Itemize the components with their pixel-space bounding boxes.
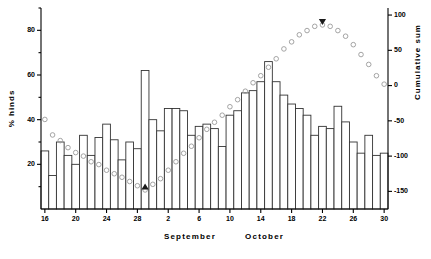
cumsum-point-oct-13 — [251, 80, 256, 85]
bar-oct-25 — [342, 122, 350, 209]
month-label-september: September — [164, 232, 216, 241]
cumsum-point-oct-25 — [343, 34, 348, 39]
cumsum-point-oct-26 — [351, 42, 356, 47]
bar-sep-24 — [103, 124, 111, 209]
bar-oct-28 — [365, 135, 373, 209]
bar-sep-22 — [87, 155, 95, 209]
cumsum-point-oct-17 — [282, 47, 287, 52]
y-axis-title: % hinds — [7, 90, 16, 128]
bar-oct-7 — [203, 124, 211, 209]
bar-oct-11 — [234, 111, 242, 209]
bar-sep-30 — [149, 120, 157, 209]
bar-sep-27 — [126, 142, 134, 209]
bar-oct-15 — [265, 62, 273, 209]
y2-axis-title: Cumulative sum — [413, 24, 422, 100]
cumsum-point-sep-20 — [73, 150, 78, 155]
bar-oct-12 — [241, 93, 249, 209]
x-tick-label-20: 20 — [72, 215, 80, 222]
cumsum-point-oct-9 — [220, 113, 225, 118]
y-tick-label-20: 20 — [27, 160, 35, 167]
y2-tick-label-0: 0 — [394, 81, 398, 88]
cumsum-point-sep-17 — [50, 133, 55, 138]
y2-tick-label-100: 100 — [394, 11, 406, 18]
y2-tick-label-50: 50 — [394, 46, 402, 53]
cumsum-point-oct-23 — [328, 24, 333, 29]
bar-sep-18 — [56, 142, 64, 209]
bar-oct-3 — [172, 109, 180, 210]
x-tick-label-24: 24 — [103, 215, 111, 222]
x-tick-label-18: 18 — [288, 215, 296, 222]
cumsum-point-oct-11 — [235, 97, 240, 102]
bar-oct-30 — [380, 153, 388, 209]
cumsum-point-oct-20 — [305, 28, 310, 33]
bar-sep-19 — [64, 155, 72, 209]
bar-oct-8 — [211, 129, 219, 209]
cumsum-point-oct-21 — [312, 24, 317, 29]
y-tick-label-60: 60 — [27, 71, 35, 78]
bar-oct-21 — [311, 135, 319, 209]
bar-oct-9 — [218, 146, 226, 209]
bar-oct-22 — [319, 126, 327, 209]
bar-oct-27 — [357, 153, 365, 209]
y2-tick-label-neg150: -150 — [394, 187, 408, 194]
cumsum-point-oct-19 — [297, 33, 302, 38]
bar-oct-19 — [295, 109, 303, 210]
bar-oct-26 — [349, 142, 357, 209]
x-tick-label-14: 14 — [257, 215, 265, 222]
bar-oct-17 — [280, 95, 288, 209]
cumsum-point-oct-27 — [359, 52, 364, 57]
bar-oct-16 — [272, 82, 280, 209]
x-tick-label-16: 16 — [41, 215, 49, 222]
cumsum-point-sep-16 — [43, 117, 48, 122]
bar-sep-17 — [49, 176, 57, 210]
x-tick-label-30: 30 — [380, 215, 388, 222]
y2-tick-label-neg100: -100 — [394, 152, 408, 159]
bar-oct-6 — [195, 126, 203, 209]
bar-sep-20 — [72, 164, 80, 209]
bar-oct-23 — [326, 129, 334, 209]
y2-tick-label-neg50: -50 — [394, 117, 404, 124]
bar-sep-21 — [80, 135, 88, 209]
bar-sep-25 — [110, 140, 118, 209]
bar-oct-10 — [226, 115, 234, 209]
x-tick-label-6: 6 — [197, 215, 201, 222]
bar-oct-4 — [180, 111, 188, 209]
chart-canvas: 20406080100500-50-100-150162024282610141… — [0, 0, 431, 259]
x-tick-label-28: 28 — [133, 215, 141, 222]
bar-oct-14 — [257, 82, 265, 209]
cumsum-point-oct-16 — [274, 56, 279, 61]
y-tick-label-40: 40 — [27, 116, 35, 123]
bar-oct-1 — [157, 131, 165, 209]
cumsum-point-oct-30 — [382, 82, 387, 87]
bar-oct-20 — [303, 115, 311, 209]
bar-oct-29 — [373, 155, 381, 209]
cumsum-point-oct-10 — [228, 104, 233, 109]
bar-sep-23 — [95, 138, 103, 209]
bar-oct-18 — [288, 104, 296, 209]
bar-sep-16 — [41, 151, 49, 209]
bar-oct-13 — [249, 91, 257, 209]
bar-oct-24 — [334, 106, 342, 209]
bar-sep-28 — [134, 149, 142, 209]
chart-figure: 20406080100500-50-100-150162024282610141… — [0, 0, 431, 259]
x-tick-label-26: 26 — [349, 215, 357, 222]
x-tick-label-10: 10 — [226, 215, 234, 222]
cumsum-point-oct-28 — [366, 62, 371, 67]
y-tick-label-80: 80 — [27, 26, 35, 33]
cumsum-point-oct-24 — [336, 28, 341, 33]
cumsum-point-oct-8 — [212, 120, 217, 125]
x-tick-label-2: 2 — [166, 215, 170, 222]
bar-oct-2 — [164, 109, 172, 210]
x-tick-label-22: 22 — [319, 215, 327, 222]
cumsum-point-oct-14 — [258, 73, 263, 78]
cumsum-point-oct-29 — [374, 73, 379, 78]
month-label-october: October — [245, 232, 284, 241]
cumsum-point-sep-19 — [66, 145, 71, 150]
cumsum-point-oct-18 — [289, 40, 294, 45]
bar-sep-26 — [118, 160, 126, 209]
